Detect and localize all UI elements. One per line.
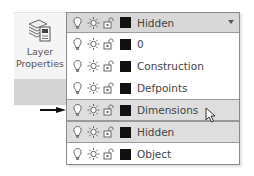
sun-icon[interactable] [87,81,100,95]
layer-properties-button[interactable]: Layer Properties [14,14,66,74]
layer-color-swatch[interactable] [120,105,131,116]
layer-item-construction[interactable]: Construction [67,55,239,77]
sun-icon[interactable] [87,37,100,51]
unlock-icon[interactable] [103,37,116,51]
current-layer-name: Hidden [137,17,174,29]
sun-icon[interactable] [87,16,100,30]
layer-name: Object [137,148,171,160]
sun-icon[interactable] [87,147,100,161]
layer-properties-label-1: Layer [27,46,54,58]
layer-name: Dimensions [137,104,198,116]
sun-icon[interactable] [87,103,100,117]
unlock-icon[interactable] [103,103,116,117]
layer-dropdown[interactable]: Hidden 0 Construction Defpoints [66,12,240,165]
layer-item-object[interactable]: Object [67,143,239,165]
lightbulb-icon[interactable] [71,37,84,51]
layer-color-swatch[interactable] [120,61,131,72]
lightbulb-icon[interactable] [71,81,84,95]
unlock-icon[interactable] [103,16,116,30]
sun-icon[interactable] [87,125,100,139]
lightbulb-icon[interactable] [71,103,84,117]
unlock-icon[interactable] [103,147,116,161]
lightbulb-icon[interactable] [71,125,84,139]
layer-color-swatch[interactable] [120,127,131,138]
layer-name: Hidden [137,126,174,138]
layer-color-swatch[interactable] [120,83,131,94]
layer-properties-label-2: Properties [16,58,64,70]
layer-color-swatch[interactable] [120,17,131,28]
ribbon-panel-footer [14,79,66,105]
lightbulb-icon[interactable] [71,16,84,30]
lightbulb-icon[interactable] [71,59,84,73]
unlock-icon[interactable] [103,81,116,95]
layer-name: Construction [137,60,204,72]
chevron-down-icon[interactable] [228,20,234,24]
unlock-icon[interactable] [103,59,116,73]
pointer-arrow-annotation [40,107,66,113]
lightbulb-icon[interactable] [71,147,84,161]
layer-color-swatch[interactable] [120,39,131,50]
sun-icon[interactable] [87,59,100,73]
layer-color-swatch[interactable] [120,149,131,160]
mouse-cursor-icon [205,107,217,123]
unlock-icon[interactable] [103,125,116,139]
layer-name: 0 [137,38,144,50]
layer-item-defpoints[interactable]: Defpoints [67,77,239,99]
layer-combo-current[interactable]: Hidden [67,13,239,33]
layer-item-hidden[interactable]: Hidden [67,121,239,143]
layer-name: Defpoints [137,82,188,94]
layer-item-0[interactable]: 0 [67,33,239,55]
layer-stack-icon [27,16,53,44]
